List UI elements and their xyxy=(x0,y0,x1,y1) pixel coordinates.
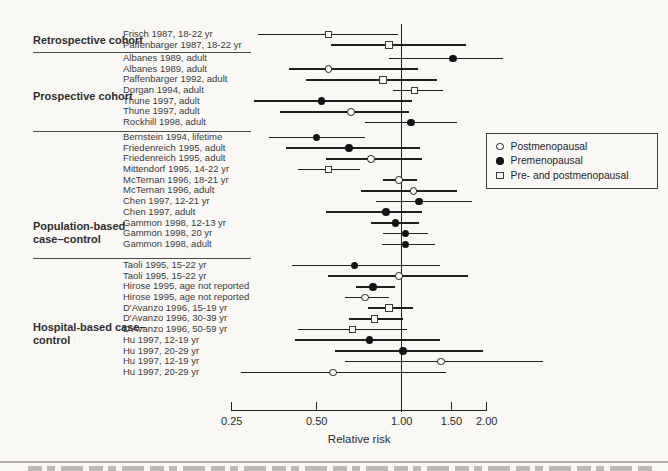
legend-item: Premenopausal xyxy=(496,154,653,169)
study-label: Chen 1997, adult xyxy=(123,207,195,218)
marker-filled-circle xyxy=(345,144,353,152)
marker-filled-circle xyxy=(382,208,390,216)
filled-circle-icon xyxy=(496,157,504,165)
marker-filled-circle xyxy=(369,283,377,291)
axis-tick xyxy=(451,402,452,411)
marker-open-square xyxy=(371,315,379,323)
marker-open-square xyxy=(411,87,419,95)
marker-open-circle xyxy=(361,294,369,302)
marker-open-square xyxy=(385,41,393,49)
marker-open-square xyxy=(385,304,393,312)
legend-label: Postmenopausal xyxy=(511,141,588,152)
marker-open-square xyxy=(349,326,357,334)
marker-open-circle xyxy=(395,176,403,184)
footer-rule xyxy=(0,461,668,463)
study-label: Paffenbarger 1987, 18-22 yr xyxy=(123,40,242,51)
legend-item: Pre- and postmenopausal xyxy=(496,168,653,183)
x-axis-line xyxy=(232,410,487,411)
marker-open-circle xyxy=(410,187,418,195)
ci-line xyxy=(254,100,412,102)
legend-label: Premenopausal xyxy=(511,155,583,166)
marker-filled-circle xyxy=(407,119,415,127)
legend-box: PostmenopausalPremenopausalPre- and post… xyxy=(486,133,658,189)
open-circle-icon xyxy=(496,143,504,151)
ci-line xyxy=(289,68,417,70)
axis-tick xyxy=(316,402,317,411)
marker-filled-circle xyxy=(392,219,400,227)
marker-filled-circle xyxy=(351,262,359,270)
axis-tick xyxy=(401,402,402,411)
study-label: Hu 1997, 12-19 yr xyxy=(123,335,199,346)
marker-open-circle xyxy=(395,272,403,280)
ci-line xyxy=(241,372,445,374)
ci-line xyxy=(280,111,409,113)
marker-open-square xyxy=(379,76,387,84)
study-label: Rockhill 1998, adult xyxy=(123,117,206,128)
marker-filled-circle xyxy=(415,198,423,206)
study-label: Hu 1997, 20-29 yr xyxy=(123,367,199,378)
ci-line xyxy=(335,350,483,352)
marker-filled-circle xyxy=(399,347,407,355)
axis-tick-label: 0.25 xyxy=(212,415,252,427)
section-divider xyxy=(33,52,251,53)
x-axis-title: Relative risk xyxy=(232,433,487,445)
ci-line xyxy=(326,211,422,213)
marker-filled-circle xyxy=(318,97,326,105)
section-divider xyxy=(33,131,251,132)
ci-line xyxy=(376,201,472,203)
legend-label: Pre- and postmenopausal xyxy=(511,170,629,181)
section-divider xyxy=(33,258,251,259)
marker-filled-circle xyxy=(449,55,457,63)
ci-line xyxy=(306,79,436,81)
study-label: Gammon 1998, adult xyxy=(123,239,212,250)
marker-filled-circle xyxy=(402,230,410,238)
ci-line xyxy=(389,58,504,60)
open-square-icon xyxy=(496,172,504,180)
figure-caption-cutoff xyxy=(28,466,654,471)
legend-item: Postmenopausal xyxy=(496,139,653,154)
marker-filled-circle xyxy=(402,241,410,249)
ci-line xyxy=(331,44,466,46)
marker-open-circle xyxy=(437,358,445,366)
axis-tick xyxy=(231,402,232,411)
marker-open-square xyxy=(325,166,333,174)
axis-tick-label: 1.50 xyxy=(431,415,471,427)
axis-tick xyxy=(486,402,487,411)
axis-tick-label: 1.00 xyxy=(382,415,422,427)
ci-line xyxy=(292,265,440,267)
axis-tick-label: 2.00 xyxy=(467,415,507,427)
axis-tick-label: 0.50 xyxy=(297,415,337,427)
marker-open-circle xyxy=(329,369,337,377)
ci-line xyxy=(286,147,420,149)
forest-plot-figure: Relative risk PostmenopausalPremenopausa… xyxy=(0,0,668,471)
marker-open-circle xyxy=(347,108,355,116)
marker-filled-circle xyxy=(366,336,374,344)
marker-open-square xyxy=(325,31,333,39)
marker-filled-circle xyxy=(313,134,321,142)
marker-open-circle xyxy=(325,65,333,73)
marker-open-circle xyxy=(367,155,375,163)
